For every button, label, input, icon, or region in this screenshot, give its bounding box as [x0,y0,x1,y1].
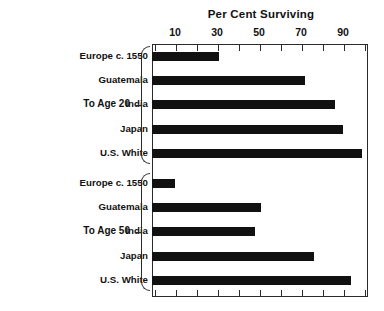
bars-layer [152,44,368,297]
x-tick-label: 90 [337,26,349,38]
group-brace [141,173,150,291]
bar [152,100,335,109]
category-label: Guatemala [36,74,148,85]
category-label: U.S. White [36,147,148,158]
bar [152,276,351,285]
bar [152,227,255,236]
group-label: To Age 50 [44,225,130,236]
x-tick-label: 30 [211,26,223,38]
category-label: Japan [36,123,148,134]
x-tick-label: 10 [169,26,181,38]
category-label: Guatemala [36,201,148,212]
bar [152,203,261,212]
group-brace-nub [136,232,142,233]
x-axis-tick-labels: 1030507090 [0,26,384,40]
bar [152,149,362,158]
category-label: Japan [36,250,148,261]
survival-bar-chart: Per Cent Surviving 1030507090 Europe c. … [0,0,384,311]
category-labels-column: Europe c. 1550GuatemalaIndiaJapanU.S. Wh… [28,44,148,297]
group-label: To Age 20 [44,98,130,109]
chart-title: Per Cent Surviving [154,8,368,20]
bar [152,125,343,134]
group-brace [141,46,150,164]
x-tick-label: 70 [295,26,307,38]
bar [152,179,175,188]
category-label: Europe c. 1550 [36,177,148,188]
bar [152,252,314,261]
x-tick-label: 50 [253,26,265,38]
bar [152,76,305,85]
group-brace-nub [136,105,142,106]
category-label: U.S. White [36,274,148,285]
bar [152,52,219,61]
category-label: Europe c. 1550 [36,50,148,61]
